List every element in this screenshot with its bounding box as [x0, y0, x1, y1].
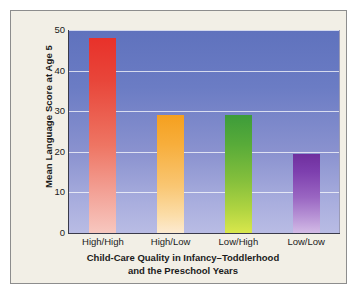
x-axis-title: Child-Care Quality in Infancy–Toddlerhoo… [33, 252, 333, 277]
y-axis-tick-label: 0 [43, 228, 65, 238]
bar-high-low [157, 115, 184, 233]
y-axis-tick-label: 50 [43, 25, 65, 35]
y-axis-tick-label: 40 [43, 66, 65, 76]
plot-area [69, 30, 340, 233]
figure-card: Mean Language Score at Age 5 01020304050… [10, 10, 347, 284]
gridline [69, 30, 339, 31]
bar-low-high [225, 115, 252, 233]
x-axis-tick-label: High/High [69, 236, 137, 247]
y-axis-tick-labels: 01020304050 [43, 30, 65, 233]
x-axis-category-labels: High/HighHigh/LowLow/HighLow/Low [69, 236, 340, 250]
bar-high-high [89, 38, 116, 233]
x-axis-tick-label: Low/High [205, 236, 273, 247]
y-axis-tick-label: 30 [43, 106, 65, 116]
x-axis-tick-label: High/Low [137, 236, 205, 247]
x-axis-line [69, 233, 340, 234]
y-axis-tick-label: 10 [43, 187, 65, 197]
x-axis-title-line-2: and the Preschool Years [33, 265, 333, 278]
x-axis-title-line-1: Child-Care Quality in Infancy–Toddlerhoo… [87, 252, 279, 263]
bar-low-low [293, 154, 320, 233]
x-axis-tick-label: Low/Low [272, 236, 340, 247]
y-axis-tick-label: 20 [43, 147, 65, 157]
